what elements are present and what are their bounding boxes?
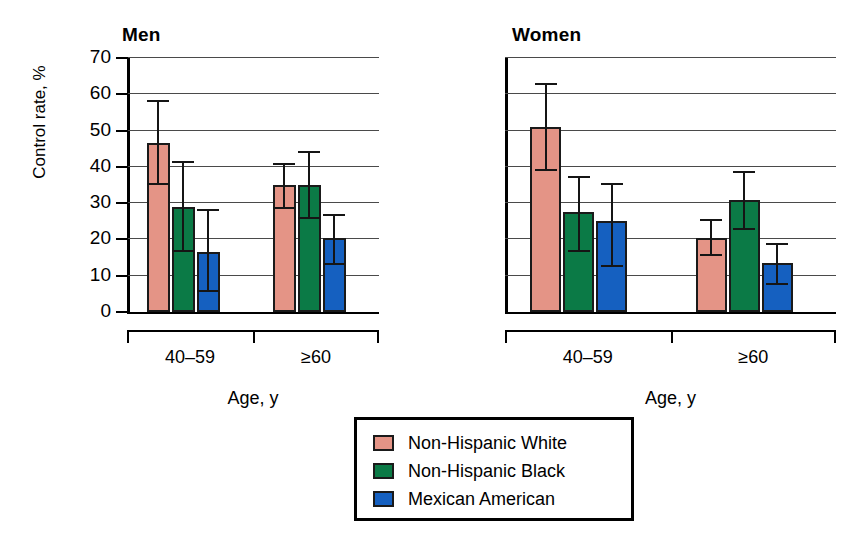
y-tick-label: 40 [90,155,111,177]
x-tick-label-40-59: 40–59 [563,347,613,368]
x-axis-title-women: Age, y [645,388,696,409]
error-cap-upper [273,163,295,165]
chart-figure: Men Women Control rate, % 70605040302010… [0,0,865,553]
gridline-70 [127,57,379,58]
error-cap-lower [197,290,219,292]
error-cap-upper [766,243,788,245]
panel-title-men: Men [122,24,161,46]
error-bar-men-1-0 [283,163,285,208]
error-cap-upper [323,214,345,216]
error-cap-upper [147,100,169,102]
error-cap-lower [147,183,169,185]
error-cap-upper [700,219,722,221]
error-bar-women-0-2 [611,183,613,266]
error-bar-men-0-1 [182,161,184,252]
plot-area-men: 706050403020100 40–59 ≥60 Age, y [127,58,379,314]
plot-baseline [505,312,836,314]
y-tick-mark [116,202,128,204]
error-bar-men-1-1 [308,151,310,220]
legend-label-2: Mexican American [408,489,555,510]
error-bar-women-0-0 [545,83,547,170]
error-cap-lower [273,207,295,209]
x-axis-end-left [127,330,129,343]
error-bar-women-1-1 [743,171,745,231]
error-cap-lower [601,265,623,267]
x-axis-title-men: Age, y [227,388,278,409]
error-cap-upper [601,183,623,185]
panel-title-women: Women [512,24,581,46]
x-axis-mid-tick [253,330,255,343]
error-cap-lower [298,217,320,219]
error-cap-upper [298,151,320,153]
error-cap-upper [172,161,194,163]
error-cap-lower [700,254,722,256]
legend-label-0: Non-Hispanic White [408,433,567,454]
legend-item-2[interactable]: Mexican American [373,485,631,513]
error-cap-lower [172,250,194,252]
error-cap-upper [568,176,590,178]
error-cap-upper [535,83,557,85]
y-tick-mark [116,238,128,240]
error-cap-lower [323,263,345,265]
error-cap-lower [766,283,788,285]
legend-label-1: Non-Hispanic Black [408,461,565,482]
y-axis-label: Control rate, % [30,12,50,232]
legend-swatch-0 [373,435,394,451]
y-tick-label: 50 [90,119,111,141]
x-axis-mid-tick [671,330,673,343]
error-cap-lower [568,250,590,252]
y-tick-mark [116,130,128,132]
y-tick-label: 30 [90,191,111,213]
legend-swatch-1 [373,463,394,479]
error-cap-lower [733,228,755,230]
error-bar-men-1-2 [333,214,335,265]
gridline-70 [505,57,836,58]
error-bar-men-0-0 [157,100,159,185]
gridline-60 [505,93,836,94]
y-tick-mark [116,57,128,59]
y-tick-mark [116,275,128,277]
x-axis-end-right [377,330,379,343]
x-tick-label-40-59: 40–59 [165,347,215,368]
error-bar-women-1-0 [710,219,712,255]
x-tick-label-60plus: ≥60 [301,347,331,368]
error-bar-women-1-2 [776,243,778,285]
legend-item-0[interactable]: Non-Hispanic White [373,429,631,457]
error-bar-men-0-2 [207,209,209,292]
y-tick-label: 60 [90,82,111,104]
plot-baseline [127,312,379,314]
y-tick-label: 20 [90,227,111,249]
y-tick-label: 10 [90,264,111,286]
legend-swatch-2 [373,491,394,507]
error-bar-women-0-1 [578,176,580,252]
error-cap-lower [535,169,557,171]
error-cap-upper [197,209,219,211]
y-tick-mark [116,166,128,168]
y-tick-label: 0 [100,300,111,322]
chart-legend: Non-Hispanic WhiteNon-Hispanic BlackMexi… [354,417,634,521]
x-tick-label-60plus: ≥60 [738,347,768,368]
plot-area-women: 40–59 ≥60 Age, y [505,58,836,314]
y-tick-mark [116,93,128,95]
x-axis-end-left [505,330,507,343]
y-tick-label: 70 [90,46,111,68]
x-axis-end-right [834,330,836,343]
gridline-60 [127,93,379,94]
error-cap-upper [733,171,755,173]
gridline-50 [127,130,379,131]
legend-item-1[interactable]: Non-Hispanic Black [373,457,631,485]
